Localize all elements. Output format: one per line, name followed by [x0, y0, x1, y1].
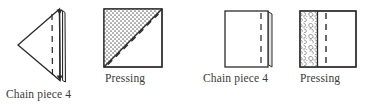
caption-chain-piece-4-first: Chain piece 4 [6, 88, 71, 101]
sewing-instruction-figure: Chain piece 4 Pressing Chain piece 4 Pre… [0, 0, 379, 110]
textured-left-band [301, 12, 318, 67]
caption-pressing-first: Pressing [105, 72, 145, 85]
step-2-illustration [104, 9, 162, 67]
caption-pressing-second: Pressing [300, 72, 340, 85]
step-4-illustration [300, 11, 356, 67]
caption-chain-piece-4-second: Chain piece 4 [203, 72, 268, 85]
folded-edge-flap [63, 11, 66, 83]
step-1-illustration [18, 9, 66, 82]
triangle-right-edge [60, 9, 61, 81]
chain-piece-triangle-outline [18, 9, 60, 81]
step-3-illustration [225, 11, 272, 67]
